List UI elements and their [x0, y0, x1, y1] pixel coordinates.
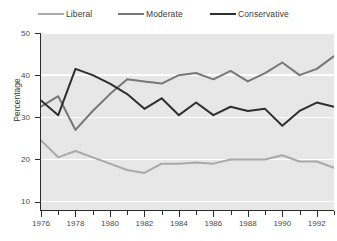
- x-tick-minor: [231, 211, 232, 215]
- legend-label-conservative: Conservative: [238, 6, 289, 22]
- legend-swatch-conservative: [210, 13, 236, 16]
- y-tick: [35, 159, 40, 160]
- x-tick-major: [144, 211, 145, 217]
- legend-item-moderate: Moderate: [118, 6, 183, 22]
- x-tick-major: [75, 211, 76, 217]
- x-tick-major: [317, 211, 318, 217]
- y-tick: [35, 33, 40, 34]
- x-tick-label: 1984: [165, 219, 193, 228]
- x-tick-label: 1982: [130, 219, 158, 228]
- x-tick-major: [110, 211, 111, 217]
- x-tick-minor: [93, 211, 94, 215]
- series-line-conservative: [41, 69, 334, 126]
- x-tick-major: [282, 211, 283, 217]
- x-tick-minor: [58, 211, 59, 215]
- x-tick-label: 1990: [268, 219, 296, 228]
- x-tick-label: 1978: [61, 219, 89, 228]
- x-tick-minor: [334, 211, 335, 215]
- x-tick-minor: [300, 211, 301, 215]
- y-tick: [35, 75, 40, 76]
- x-tick-major: [41, 211, 42, 217]
- legend-swatch-liberal: [38, 13, 64, 16]
- y-tick-label: 20: [8, 155, 30, 164]
- x-tick-label: 1992: [303, 219, 331, 228]
- legend-label-liberal: Liberal: [66, 6, 92, 22]
- x-tick-minor: [127, 211, 128, 215]
- x-tick-label: 1986: [199, 219, 227, 228]
- x-tick-major: [179, 211, 180, 217]
- chart-legend: Liberal Moderate Conservative: [0, 6, 337, 22]
- x-tick-major: [248, 211, 249, 217]
- x-tick-minor: [265, 211, 266, 215]
- y-axis-label: Percentage: [12, 65, 22, 135]
- x-axis-line: [40, 210, 334, 211]
- x-tick-major: [213, 211, 214, 217]
- data-series-group: [41, 33, 334, 210]
- x-tick-label: 1988: [234, 219, 262, 228]
- x-tick-minor: [162, 211, 163, 215]
- y-tick-label: 50: [8, 29, 30, 38]
- y-tick-label: 10: [8, 197, 30, 206]
- x-tick-minor: [196, 211, 197, 215]
- x-tick-label: 1976: [27, 219, 55, 228]
- legend-item-liberal: Liberal: [38, 6, 92, 22]
- y-tick: [35, 117, 40, 118]
- x-tick-label: 1980: [96, 219, 124, 228]
- legend-item-conservative: Conservative: [210, 6, 289, 22]
- legend-label-moderate: Moderate: [146, 6, 183, 22]
- y-tick: [35, 202, 40, 203]
- series-line-liberal: [41, 140, 334, 172]
- legend-swatch-moderate: [118, 13, 144, 16]
- chart-figure: Liberal Moderate Conservative 1020304050…: [0, 0, 337, 241]
